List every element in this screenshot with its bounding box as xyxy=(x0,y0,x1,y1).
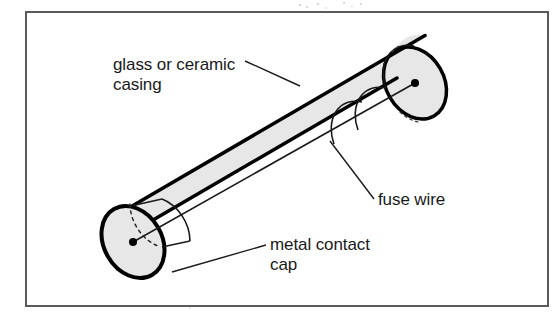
label-casing-line1: glass or ceramic xyxy=(113,55,236,74)
label-cap-line1: metal contact xyxy=(270,235,370,254)
label-fuse-wire-line1: fuse wire xyxy=(378,190,445,209)
fuse-diagram-canvas: glass or ceramic casing fuse wire metal … xyxy=(0,0,559,317)
fuse-diagram-figure: glass or ceramic casing fuse wire metal … xyxy=(0,0,559,317)
left-wire-terminal-dot xyxy=(129,238,137,246)
label-casing-line2: casing xyxy=(113,75,162,94)
right-wire-terminal-dot xyxy=(411,79,419,87)
label-cap-line2: cap xyxy=(270,255,297,274)
label-fuse-wire: fuse wire xyxy=(378,190,445,209)
